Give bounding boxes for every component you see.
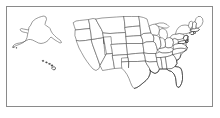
region-west bbox=[74, 17, 129, 71]
hawaii-inset bbox=[42, 60, 56, 70]
alaska-island-2 bbox=[14, 47, 15, 48]
state-PA bbox=[170, 34, 185, 40]
hawaii-island-molokai bbox=[49, 63, 51, 64]
state-ME bbox=[195, 17, 203, 29]
state-AR bbox=[144, 53, 157, 62]
us-states-map bbox=[0, 0, 220, 118]
state-MD bbox=[179, 41, 187, 44]
state-AK-peninsula bbox=[20, 29, 29, 34]
state-CO bbox=[111, 44, 128, 56]
state-FL bbox=[167, 67, 183, 88]
state-OK bbox=[128, 53, 146, 62]
state-OR bbox=[75, 29, 92, 42]
hawaii-island-oahu bbox=[46, 62, 48, 63]
state-CT bbox=[190, 32, 194, 35]
hawaii-island-bigisland bbox=[52, 67, 56, 70]
state-KS bbox=[127, 44, 145, 55]
state-ND bbox=[124, 17, 140, 28]
state-TX bbox=[122, 61, 151, 89]
us-map-figure bbox=[0, 0, 220, 118]
alaska-inset bbox=[13, 16, 62, 48]
state-WA bbox=[74, 20, 91, 31]
hawaii-island-kauai bbox=[42, 60, 44, 61]
state-SD bbox=[125, 26, 141, 37]
state-NE bbox=[126, 36, 143, 44]
state-RI bbox=[194, 32, 196, 35]
alaska-island-1 bbox=[16, 48, 17, 49]
hawaii-island-maui bbox=[51, 65, 53, 66]
state-AK bbox=[13, 16, 62, 48]
